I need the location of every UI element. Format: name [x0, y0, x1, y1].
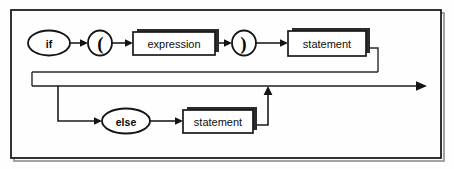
node-statement-else[interactable]: statement — [183, 107, 257, 133]
node-lparen[interactable]: ( — [88, 31, 112, 56]
diagram-frame-fill — [11, 10, 441, 158]
node-rparen-label: ) — [240, 33, 246, 55]
node-statement-then[interactable]: statement — [288, 28, 370, 56]
node-else-label: else — [116, 116, 137, 128]
node-if[interactable]: if — [28, 31, 70, 56]
railroad-diagram-svg: if ( expression ) statement else — [0, 0, 454, 169]
node-statement-then-label: statement — [303, 38, 351, 50]
node-statement-else-label: statement — [194, 116, 242, 128]
syntax-diagram-root: if ( expression ) statement else — [0, 0, 454, 169]
node-lparen-label: ( — [97, 33, 103, 55]
node-if-label: if — [46, 38, 53, 50]
node-expression-label: expression — [147, 38, 200, 50]
node-else[interactable]: else — [102, 109, 150, 134]
node-expression[interactable]: expression — [133, 29, 219, 55]
node-rparen[interactable]: ) — [232, 31, 256, 56]
